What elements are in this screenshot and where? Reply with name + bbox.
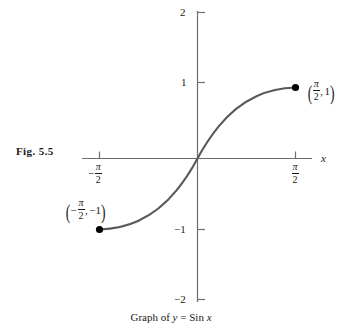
caption-x-variable: x — [207, 311, 212, 323]
left-endpoint-dot — [96, 226, 103, 233]
x-axis-label: x — [321, 153, 326, 164]
fraction-numerator: π — [95, 162, 102, 173]
x-tick-label-pi-over-2: π2 — [291, 163, 299, 186]
caption-prefix: Graph of — [130, 311, 172, 323]
right-endpoint-dot — [292, 84, 299, 91]
y-tick-label-2: 2 — [180, 7, 186, 18]
caption-equation: = Sin — [178, 311, 207, 323]
ordered-pair: ( −π2,−1 ) — [63, 199, 108, 222]
figure-container: Fig. 5.5 2 1 −1 −2 −π2 π2 x ( — [0, 0, 342, 332]
pi-over-2-fraction: π2 — [78, 198, 85, 221]
ordered-pair: ( π2,1 ) — [305, 80, 337, 103]
fraction-denominator: 2 — [78, 211, 85, 222]
y-tick-label-1: 1 — [181, 77, 187, 88]
fraction-denominator: 2 — [292, 175, 299, 186]
fraction-denominator: 2 — [313, 92, 320, 103]
fraction-numerator: π — [313, 79, 320, 90]
y-tick-label-minus-1: −1 — [174, 224, 186, 235]
minus-sign: − — [88, 167, 94, 179]
y-tick-label-minus-2: −2 — [174, 294, 186, 305]
pi-over-2-fraction: π2 — [313, 79, 320, 102]
fraction-numerator: π — [292, 162, 299, 173]
pair-body: −π2,−1 — [70, 199, 101, 222]
minus-sign: − — [70, 205, 77, 216]
pi-over-2-fraction: π2 — [95, 162, 102, 185]
left-endpoint-annotation: ( −π2,−1 ) — [63, 199, 108, 222]
right-endpoint-annotation: ( π2,1 ) — [305, 80, 337, 103]
fraction-numerator: π — [78, 198, 85, 209]
fraction-denominator: 2 — [95, 175, 102, 186]
pair-y-value: −1 — [89, 205, 101, 216]
pi-over-2-fraction: π2 — [292, 162, 299, 185]
x-tick-label-minus-pi-over-2: −π2 — [88, 163, 102, 186]
pair-body: π2,1 — [312, 80, 330, 103]
figure-caption: Graph of y = Sin x — [0, 312, 342, 323]
